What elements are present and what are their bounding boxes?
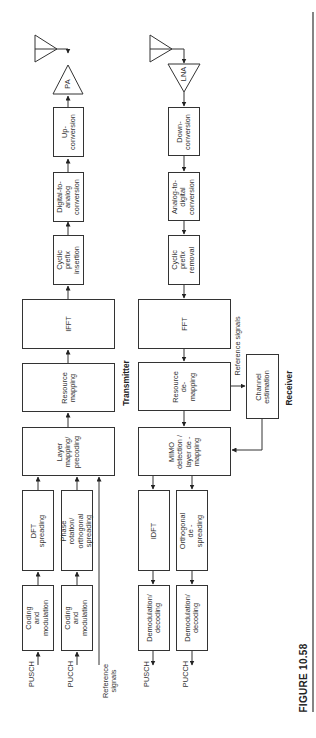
channel-estimation-block: Channel estimation — [246, 354, 279, 419]
lna-label: LNA — [180, 67, 188, 81]
resource-mapping-label: Resource mapping — [60, 372, 77, 404]
mimo-detection-label: MIMO detection / layer de - mapping — [168, 434, 202, 468]
downconversion-block: Down- conversion — [168, 107, 200, 156]
adc-block: Analog-to- digital conversion — [168, 172, 200, 221]
cp-insertion-label: Cyclic prefix insertion — [56, 246, 81, 274]
upconversion-block: Up- conversion — [53, 107, 84, 157]
idft-label: IDFT — [150, 522, 158, 538]
cp-insertion-block: Cyclic prefix insertion — [53, 235, 84, 285]
downconversion-label: Down- conversion — [176, 114, 193, 150]
transmitter-title: Transmitter — [122, 360, 130, 406]
dft-spreading-label: DFT spreading — [30, 514, 47, 546]
coding-pucch-label: Coding and modulation — [64, 600, 89, 636]
pa-label: PA — [64, 79, 72, 88]
ifft-block: IFFT — [22, 299, 115, 349]
resource-demapping-block: Resource de- mapping — [138, 362, 231, 411]
tx-reference-signals-label: Reference signals — [102, 664, 119, 698]
coding-pucch-block: Coding and modulation — [61, 585, 93, 651]
orthogonal-despreading-block: Orthogonal de - spreading — [176, 490, 208, 571]
resource-mapping-block: Resource mapping — [22, 363, 115, 412]
channel-estimation-label: Channel estimation — [254, 370, 271, 404]
demod-pusch-label: Demodulation/ decoding — [146, 594, 163, 642]
tx-antenna-icon — [35, 35, 57, 62]
dac-label: Digital-to- analog conversion — [56, 179, 81, 215]
mimo-detection-block: MIMO detection / layer de - mapping — [138, 427, 231, 476]
demod-pusch-block: Demodulation/ decoding — [138, 585, 170, 651]
layer-mapping-block: Layer mapping/ precoding — [22, 427, 115, 476]
rx-reference-signals-label: Reference signals — [234, 316, 242, 375]
layer-mapping-label: Layer mapping/ precoding — [56, 435, 81, 467]
rx-pusch-output-label: PUSCH — [143, 661, 151, 687]
rx-antenna-icon — [150, 35, 172, 62]
figure-caption: FIGURE 10.58 — [300, 643, 308, 712]
demod-pucch-block: Demodulation/ decoding — [176, 585, 208, 651]
cp-removal-block: Cyclic prefix removal — [168, 235, 200, 285]
tx-pucch-input-label: PUCCH — [67, 661, 75, 687]
fft-block: FFT — [138, 299, 231, 349]
demod-pucch-label: Demodulation/ decoding — [184, 594, 201, 642]
upconversion-label: Up- conversion — [60, 114, 77, 150]
tx-pusch-input-label: PUSCH — [28, 661, 36, 687]
phase-rotation-block: Phase rotation/ orthogonal spreading — [61, 490, 93, 571]
orthogonal-despreading-label: Orthogonal de - spreading — [179, 512, 204, 549]
adc-label: Analog-to- digital conversion — [171, 179, 196, 215]
idft-block: IDFT — [138, 490, 170, 571]
receiver-title: Receiver — [285, 371, 293, 406]
dft-spreading-block: DFT spreading — [22, 490, 54, 571]
dac-block: Digital-to- analog conversion — [53, 172, 84, 222]
cp-removal-label: Cyclic prefix removal — [171, 247, 196, 273]
fft-label: FFT — [180, 317, 188, 331]
phase-rotation-label: Phase rotation/ orthogonal spreading — [60, 513, 94, 548]
ifft-label: IFFT — [64, 316, 72, 332]
coding-pusch-block: Coding and modulation — [22, 585, 54, 651]
rx-pucch-output-label: PUCCH — [182, 661, 190, 687]
resource-demapping-label: Resource de- mapping — [172, 371, 197, 403]
coding-pusch-label: Coding and modulation — [25, 600, 50, 636]
